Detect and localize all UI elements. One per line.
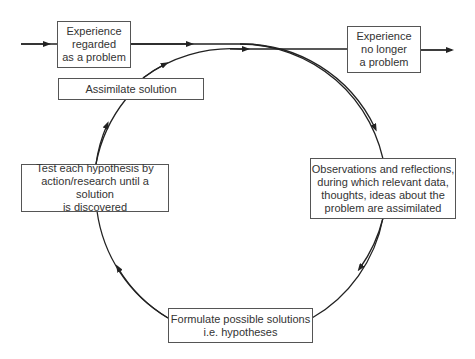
box-experience-resolved: Experience no longer a problem [347,26,421,73]
test-to-assimilate-arc [96,99,126,164]
box-test-hypothesis: Test each hypothesis by action/research … [21,164,169,212]
formulate-to-test-arc [97,211,168,318]
box-formulate-solutions: Formulate possible solutions i.e. hypoth… [168,308,313,343]
box-assimilate-solution: Assimilate solution [58,78,204,100]
box-experience-problem: Experience regarded as a problem [57,21,131,68]
box-observations: Observations and reflections, during whi… [310,158,456,219]
observations-to-formulate-arc [312,218,383,318]
